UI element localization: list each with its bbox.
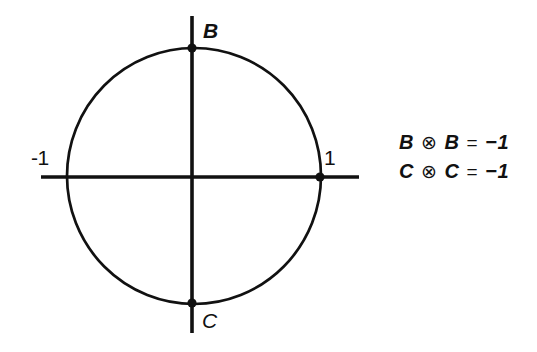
axis-tick-label-minus-one: -1 xyxy=(31,147,49,168)
equals-sign: = xyxy=(466,128,480,157)
equation-result: −1 xyxy=(485,160,509,182)
equation-result: −1 xyxy=(485,131,509,153)
axis-tick-label-one: 1 xyxy=(324,147,336,168)
point-label-C: C xyxy=(202,310,217,331)
point-marker-one xyxy=(315,172,324,181)
circled-times-icon: ⊗ xyxy=(420,157,439,186)
circled-times-icon: ⊗ xyxy=(420,128,439,157)
point-marker-B xyxy=(187,43,196,52)
equation-right-operand: C xyxy=(445,160,460,182)
point-marker-C xyxy=(187,298,196,307)
equals-sign: = xyxy=(466,157,480,186)
equation-row: B ⊗ B = −1 xyxy=(399,128,537,157)
point-label-B: B xyxy=(203,20,218,41)
equation-left-operand: C xyxy=(399,160,414,182)
equation-row: C ⊗ C = −1 xyxy=(399,157,537,186)
equation-left-operand: B xyxy=(399,131,414,153)
equation-list: B ⊗ B = −1 C ⊗ C = −1 xyxy=(399,128,537,186)
equation-right-operand: B xyxy=(445,131,460,153)
